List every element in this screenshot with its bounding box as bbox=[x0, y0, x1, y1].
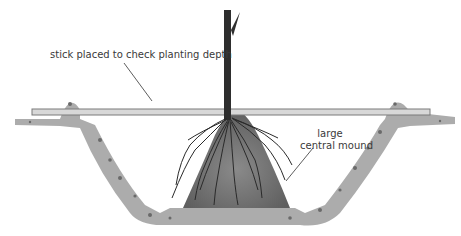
mound-label-line1: large bbox=[300, 128, 360, 140]
stick-label: stick placed to check planting depth bbox=[50, 49, 232, 61]
plant-stem bbox=[224, 10, 240, 120]
mound-label-line2: central mound bbox=[300, 140, 360, 152]
mound-label: large central mound bbox=[300, 128, 360, 152]
diagram-illustration bbox=[0, 0, 461, 236]
stick-leader-line bbox=[124, 63, 152, 101]
mound-leader-line bbox=[286, 148, 313, 181]
planting-diagram: stick placed to check planting depth lar… bbox=[0, 0, 461, 236]
